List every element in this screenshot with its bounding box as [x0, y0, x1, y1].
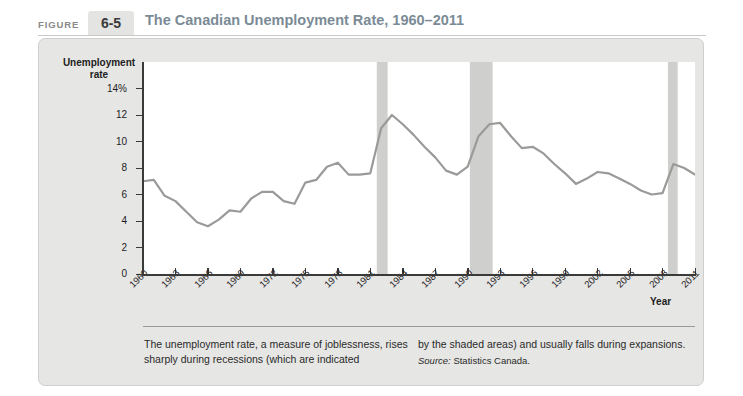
recession-band — [470, 62, 493, 274]
unemployment-line-chart — [143, 62, 695, 274]
y-tick-label: 6 — [87, 189, 127, 200]
y-tick-label: 2 — [87, 242, 127, 253]
caption-right-text: by the shaded areas) and usually falls d… — [418, 337, 708, 352]
y-tick-label: 8 — [87, 162, 127, 173]
y-tick-label: 0 — [87, 268, 127, 279]
y-axis-title: Unemployment rate — [50, 57, 148, 81]
caption-right: by the shaded areas) and usually falls d… — [418, 337, 708, 368]
caption-block: The unemployment rate, a measure of jobl… — [38, 318, 704, 386]
source-label: Source: — [418, 355, 451, 366]
caption-divider — [143, 326, 695, 327]
figure-title: The Canadian Unemployment Rate, 1960–201… — [145, 12, 464, 28]
y-axis-line — [142, 62, 144, 274]
x-tick-label: 1960 — [127, 267, 150, 290]
figure-header: FIGURE 6-5 The Canadian Unemployment Rat… — [0, 8, 743, 36]
source-value: Statistics Canada. — [451, 355, 530, 366]
y-tick-label: 12 — [87, 109, 127, 120]
caption-left: The unemployment rate, a measure of jobl… — [144, 337, 414, 366]
recession-band — [377, 62, 388, 274]
unemployment-rate-line — [143, 115, 695, 226]
y-axis-title-line2: rate — [50, 69, 148, 81]
header-divider — [38, 35, 706, 36]
y-axis-title-line1: Unemployment — [63, 57, 135, 68]
y-tick-label: 10 — [87, 136, 127, 147]
figure-number-badge: 6-5 — [88, 11, 134, 35]
caption-source: Source: Statistics Canada. — [418, 354, 708, 369]
chart-region: Unemployment rate 02468101214% 196019631… — [38, 38, 704, 318]
y-tick-label: 14% — [87, 83, 127, 94]
y-tick-label: 4 — [87, 215, 127, 226]
figure-label: FIGURE — [38, 19, 79, 30]
x-axis-title: Year — [650, 296, 671, 307]
x-axis-line — [142, 274, 696, 276]
plot-area — [143, 62, 695, 274]
